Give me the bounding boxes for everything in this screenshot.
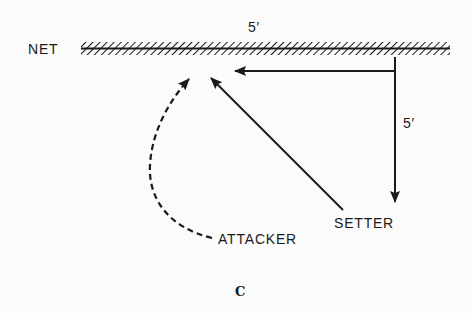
volleyball-diagram xyxy=(0,0,471,313)
net xyxy=(81,42,450,55)
setter-label: SETTER xyxy=(334,216,394,230)
attacker-label: ATTACKER xyxy=(218,232,297,246)
attacker-approach-arrow xyxy=(150,79,212,238)
figure-caption: C xyxy=(235,285,245,298)
top-distance-label: 5′ xyxy=(248,20,260,34)
net-label: NET xyxy=(28,42,58,56)
side-distance-label: 5′ xyxy=(403,116,415,130)
set-path-arrow xyxy=(211,78,343,210)
